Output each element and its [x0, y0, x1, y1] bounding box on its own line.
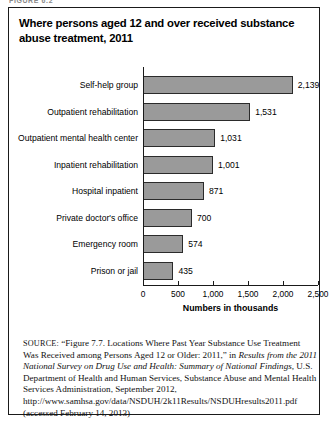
bar: [143, 103, 250, 121]
x-axis-tick: [213, 281, 214, 285]
bar: [143, 156, 213, 174]
x-axis-tick-label: 1,000: [203, 289, 224, 299]
bar: [143, 76, 293, 94]
bar-row: Hospital inpatient871: [9, 178, 321, 205]
x-axis-tick: [283, 281, 284, 285]
bar-value-label: 700: [197, 213, 211, 223]
bar-row: Outpatient rehabilitation1,531: [9, 99, 321, 126]
bar-row: Private doctor's office700: [9, 205, 321, 232]
bar-value-label: 574: [188, 239, 202, 249]
bar-category-label: Emergency room: [10, 239, 138, 249]
x-axis-tick-label: 2,000: [273, 289, 294, 299]
bar-row: Inpatient rehabilitation1,001: [9, 152, 321, 179]
bar-row: Outpatient mental health center1,031: [9, 125, 321, 152]
bar-category-label: Private doctor's office: [10, 213, 138, 223]
bar: [143, 262, 173, 280]
x-axis-tick-label: 2,500: [308, 289, 329, 299]
x-axis-tick-label: 500: [171, 289, 185, 299]
bar: [143, 209, 192, 227]
bar-category-label: Inpatient rehabilitation: [10, 160, 138, 170]
bar-value-label: 871: [209, 186, 223, 196]
bar-category-label: Prison or jail: [10, 266, 138, 276]
bar: [143, 235, 183, 253]
x-axis-tick-label: 0: [141, 289, 146, 299]
figure-title: Where persons aged 12 and over received …: [19, 16, 304, 45]
x-axis-title: Numbers in thousands: [143, 303, 318, 313]
bar-value-label: 1,001: [218, 160, 240, 170]
bar-value-label: 1,031: [220, 133, 242, 143]
x-axis-line: [143, 285, 318, 286]
y-axis-line: [143, 67, 144, 285]
source-note: SOURCE: “Figure 7.7. Locations Where Pas…: [23, 338, 317, 419]
source-kicker: SOURCE:: [23, 339, 59, 348]
bar-category-label: Hospital inpatient: [10, 186, 138, 196]
x-axis-tick: [178, 281, 179, 285]
figure-number-label: FIGURE 6.2: [9, 0, 53, 4]
figure-box: Where persons aged 12 and over received …: [8, 7, 320, 415]
bar-category-label: Self-help group: [10, 80, 138, 90]
bar-value-label: 2,139: [298, 80, 320, 90]
bar-category-label: Outpatient rehabilitation: [10, 107, 138, 117]
bar: [143, 129, 215, 147]
bar-category-label: Outpatient mental health center: [10, 133, 138, 143]
x-axis-tick: [318, 281, 319, 285]
bar-row: Prison or jail435: [9, 258, 321, 285]
bar-row: Self-help group2,139: [9, 72, 321, 99]
bar-value-label: 435: [178, 266, 192, 276]
x-axis-tick-label: 1,500: [238, 289, 259, 299]
bar-row: Emergency room574: [9, 231, 321, 258]
x-axis-tick: [143, 281, 144, 285]
bar-chart: Self-help group2,139Outpatient rehabilit…: [9, 63, 321, 321]
x-axis-tick: [248, 281, 249, 285]
bar: [143, 182, 204, 200]
bar-value-label: 1,531: [255, 107, 277, 117]
